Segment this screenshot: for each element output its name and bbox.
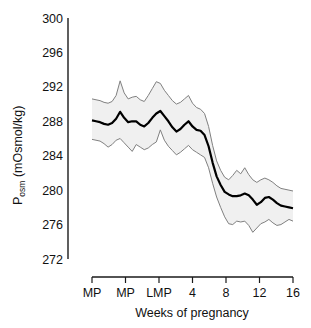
x-axis-title: Weeks of pregnancy: [135, 306, 249, 320]
y-tick-label: 284: [42, 149, 63, 163]
y-axis-title-base: P: [11, 197, 25, 205]
x-tick-label: 8: [223, 286, 230, 300]
svg-text:Posm (mOsmol/kg): Posm (mOsmol/kg): [11, 106, 27, 205]
x-axis: MPMPLMP481216: [83, 277, 300, 300]
x-tick-label: 4: [189, 286, 196, 300]
x-tick-label: LMP: [146, 286, 172, 300]
y-tick-label: 288: [42, 115, 63, 129]
y-tick-label: 276: [42, 218, 63, 232]
y-tick-label: 300: [42, 12, 63, 26]
y-axis-title-rest: (mOsmol/kg): [11, 106, 25, 181]
x-tick-label: 12: [253, 286, 267, 300]
y-tick-label: 296: [42, 46, 63, 60]
x-tick-label: MP: [116, 286, 135, 300]
x-tick-label: MP: [83, 286, 102, 300]
y-axis-title-subscript: osm: [17, 181, 27, 197]
figure-container: 272276280284288292296300 MPMPLMP481216 P…: [0, 0, 311, 328]
y-tick-label: 292: [42, 80, 63, 94]
y-axis: 272276280284288292296300: [42, 12, 68, 267]
y-tick-label: 272: [42, 253, 63, 267]
y-axis-title: Posm (mOsmol/kg): [11, 106, 27, 205]
y-tick-label: 280: [42, 184, 63, 198]
plasma-osmolality-line-chart: 272276280284288292296300 MPMPLMP481216 P…: [0, 0, 311, 328]
x-tick-label: 16: [286, 286, 300, 300]
